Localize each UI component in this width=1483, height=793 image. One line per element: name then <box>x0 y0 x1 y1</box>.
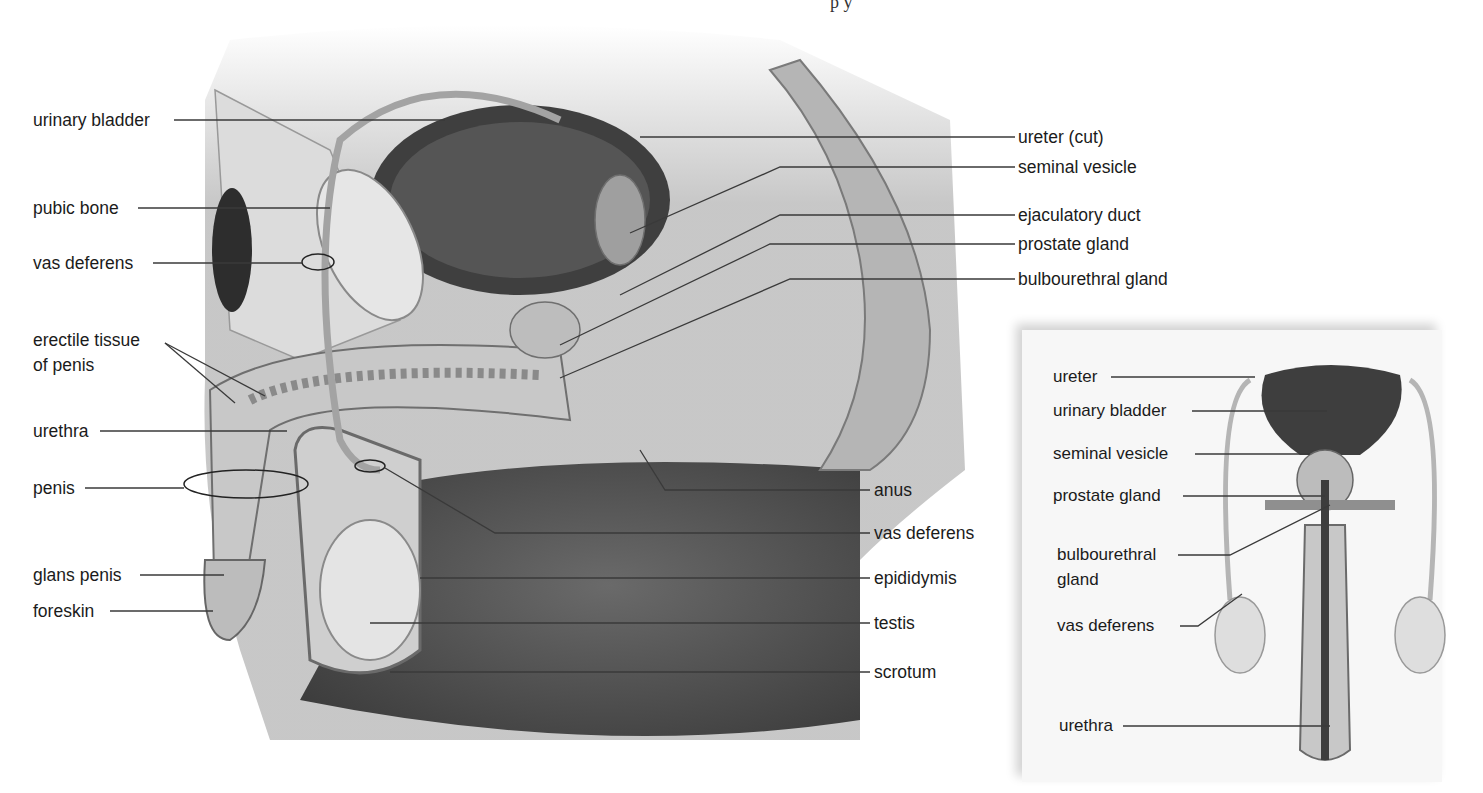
label-anus: anus <box>874 480 912 500</box>
inset-label-bulbourethral-line2: gland <box>1057 570 1099 590</box>
label-pubic-bone: pubic bone <box>33 198 119 218</box>
label-bulbourethral-gland: bulbourethral gland <box>1018 269 1168 289</box>
label-penis: penis <box>33 478 75 498</box>
label-prostate-gland: prostate gland <box>1018 234 1129 254</box>
label-testis: testis <box>874 613 915 633</box>
inset-label-urethra: urethra <box>1059 716 1113 736</box>
label-erectile-tissue-line2: of penis <box>33 355 94 375</box>
inset-label-urinary-bladder: urinary bladder <box>1053 401 1166 421</box>
label-ejaculatory-duct: ejaculatory duct <box>1018 205 1141 225</box>
label-vas-deferens-right: vas deferens <box>874 523 974 543</box>
label-urinary-bladder: urinary bladder <box>33 110 150 130</box>
inset-label-seminal-vesicle: seminal vesicle <box>1053 444 1168 464</box>
inset-label-vas-deferens: vas deferens <box>1057 616 1154 636</box>
label-seminal-vesicle: seminal vesicle <box>1018 157 1137 177</box>
inset-label-prostate-gland: prostate gland <box>1053 486 1161 506</box>
label-epididymis: epididymis <box>874 568 957 588</box>
inset-label-bulbourethral-line1: bulbourethral <box>1057 545 1156 565</box>
frontal-illustration <box>1210 340 1450 780</box>
label-foreskin: foreskin <box>33 601 94 621</box>
label-erectile-tissue-line1: erectile tissue <box>33 330 140 350</box>
anatomy-figure: p y <box>0 0 1483 793</box>
label-glans-penis: glans penis <box>33 565 122 585</box>
label-ureter-cut: ureter (cut) <box>1018 127 1104 147</box>
inset-label-ureter: ureter <box>1053 367 1097 387</box>
label-urethra: urethra <box>33 421 88 441</box>
sagittal-illustration <box>0 0 1000 793</box>
label-scrotum: scrotum <box>874 662 936 682</box>
label-vas-deferens-left: vas deferens <box>33 253 133 273</box>
